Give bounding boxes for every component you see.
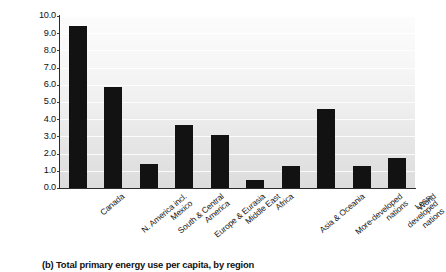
bar bbox=[175, 125, 193, 188]
y-axis-tick-label: 10.0 bbox=[26, 11, 56, 20]
x-axis-tick-labels: CanadaN. America incl. MexicoSouth & Cen… bbox=[0, 190, 428, 252]
figure-caption: (b) Total primary energy use per capita,… bbox=[42, 259, 428, 270]
bar bbox=[388, 158, 406, 188]
x-axis-tick-label: Canada bbox=[98, 192, 126, 217]
bar bbox=[140, 164, 158, 188]
y-axis-tick-label: 6.0 bbox=[26, 80, 56, 89]
y-axis-tick-label: 5.0 bbox=[26, 97, 56, 106]
bar bbox=[282, 166, 300, 188]
y-axis-tick-label: 2.0 bbox=[26, 149, 56, 158]
bar bbox=[353, 166, 371, 188]
bar bbox=[317, 109, 335, 188]
y-axis-tick-label: 8.0 bbox=[26, 46, 56, 55]
gridline bbox=[60, 68, 415, 69]
gridline bbox=[60, 50, 415, 51]
gridline bbox=[60, 33, 415, 34]
bar bbox=[69, 26, 87, 188]
y-axis-tick-label: 1.0 bbox=[26, 166, 56, 175]
bar bbox=[246, 180, 264, 188]
y-axis-tick-label: 9.0 bbox=[26, 29, 56, 38]
gridline bbox=[60, 16, 415, 17]
plot-area bbox=[60, 16, 415, 188]
bar bbox=[211, 135, 229, 188]
y-axis-tick-label: 4.0 bbox=[26, 115, 56, 124]
bar bbox=[104, 87, 122, 188]
y-axis-tick-label: 7.0 bbox=[26, 63, 56, 72]
y-axis-tick-label: 3.0 bbox=[26, 132, 56, 141]
y-axis-tick-labels: 10.09.08.07.06.05.04.03.02.01.00.0 bbox=[26, 10, 56, 194]
